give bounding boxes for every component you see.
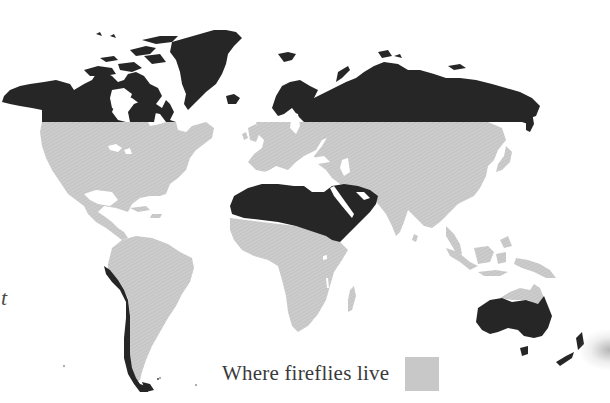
legend-swatch-habitat — [405, 357, 439, 391]
region-northern-eurasia — [272, 62, 540, 124]
region-caribbean — [130, 206, 162, 218]
region-australia — [476, 296, 552, 338]
clipped-caption-fragment: t — [1, 285, 7, 311]
map-legend: Where fireflies live — [222, 355, 439, 391]
page-fold-shadow — [580, 330, 610, 370]
region-svalbard — [278, 52, 296, 62]
region-southeast-asia — [446, 226, 512, 276]
region-south-america — [108, 236, 194, 382]
hudson-bay — [110, 88, 132, 112]
region-north-america — [40, 122, 214, 214]
region-madagascar — [348, 286, 356, 312]
region-iceland — [226, 94, 240, 104]
region-central-america — [84, 206, 128, 240]
region-new-guinea — [514, 258, 556, 278]
region-japan — [496, 146, 512, 172]
region-tasmania — [520, 346, 528, 356]
region-sri-lanka — [412, 234, 418, 242]
legend-label: Where fireflies live — [222, 361, 389, 386]
region-novaya-zemlya — [336, 66, 350, 82]
habitat-regions — [40, 122, 556, 382]
region-british-isles — [242, 124, 260, 142]
